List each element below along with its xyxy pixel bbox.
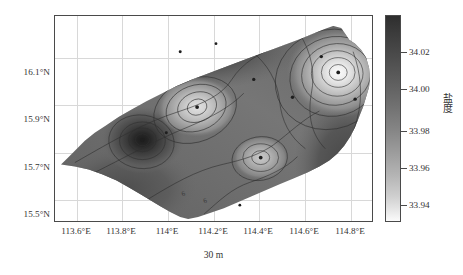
station-marker xyxy=(336,71,340,75)
station-marker xyxy=(320,55,323,58)
colorbar-tick xyxy=(401,131,407,132)
station-marker xyxy=(165,131,168,134)
colorbar-tick xyxy=(401,52,407,53)
field-fill xyxy=(55,16,372,221)
station-marker xyxy=(353,98,356,101)
station-marker xyxy=(252,78,255,81)
x-axis-labels: 113.6°E 113.8°E 114°E 114.2°E 114.4°E 11… xyxy=(54,226,373,240)
station-marker xyxy=(291,96,294,99)
y-tick-label: 15.5°N xyxy=(2,209,50,219)
colorbar-gradient xyxy=(386,16,400,221)
station-marker xyxy=(195,105,199,109)
y-tick-label: 15.7°N xyxy=(2,162,50,172)
salinity-field: 6 6 xyxy=(55,16,372,221)
y-tick-label: 15.9°N xyxy=(2,114,50,124)
station-marker xyxy=(259,156,263,160)
y-tick-label: 16.1°N xyxy=(2,67,50,77)
station-marker xyxy=(141,138,145,142)
map-plot-area: 6 6 xyxy=(54,15,373,222)
colorbar-tick-label: 34.00 xyxy=(409,84,430,94)
colorbar-tick-label: 33.98 xyxy=(409,126,430,136)
station-marker xyxy=(215,42,218,45)
colorbar-tick-label: 34.02 xyxy=(409,47,430,57)
salinity-contour-figure: 16.1°N 15.9°N 15.7°N 15.5°N xyxy=(0,0,463,275)
colorbar-tick-label: 33.96 xyxy=(409,163,430,173)
colorbar-tick-label: 33.94 xyxy=(409,200,430,210)
colorbar-title: 盐度 xyxy=(438,93,452,113)
colorbar-tick xyxy=(401,168,407,169)
x-tick-label: 114.8°E xyxy=(319,226,381,236)
depth-caption: 30 m xyxy=(54,249,373,260)
station-marker xyxy=(179,50,182,53)
y-axis-labels: 16.1°N 15.9°N 15.7°N 15.5°N xyxy=(0,15,50,222)
station-marker xyxy=(238,204,241,207)
colorbar xyxy=(385,15,401,222)
colorbar-tick xyxy=(401,205,407,206)
colorbar-tick xyxy=(401,89,407,90)
